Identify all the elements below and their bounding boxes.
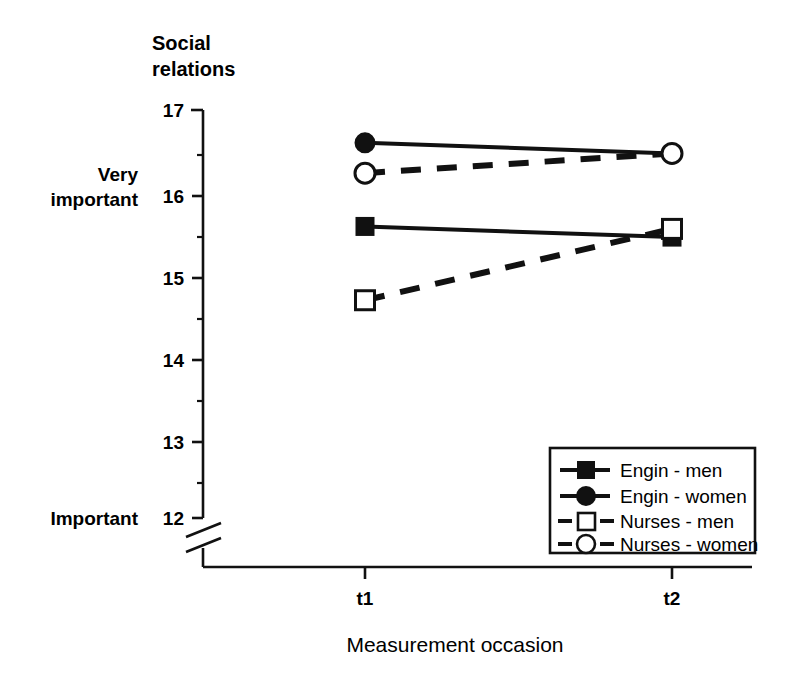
legend-item-engin-women[interactable]: Engin - women	[560, 486, 747, 507]
social-relations-line-chart: Social relations	[0, 0, 793, 675]
y-tick-label-16: 16	[163, 186, 184, 207]
y-anchor-label-very-important-line2: important	[50, 189, 138, 210]
series-line	[365, 143, 672, 154]
series-line	[365, 153, 672, 173]
y-axis-break-icon	[186, 523, 221, 552]
legend-item-nurses-men[interactable]: Nurses - men	[558, 511, 734, 532]
y-tick-label-12: 12	[163, 508, 184, 529]
y-tick-label-14: 14	[163, 350, 185, 371]
y-major-ticks	[192, 196, 203, 518]
open-circle-marker	[355, 163, 375, 183]
legend-item-nurses-women[interactable]: Nurses - women	[558, 534, 758, 555]
legend-label-nurses-women: Nurses - women	[620, 534, 758, 555]
chart-container: Social relations	[0, 0, 793, 675]
y-anchor-label-important: Important	[50, 508, 138, 529]
series-line	[365, 226, 672, 237]
filled-square-icon	[578, 462, 594, 478]
filled-square-marker	[357, 218, 374, 235]
y-axis	[186, 110, 221, 567]
open-circle-icon	[577, 535, 595, 553]
y-anchor-label-very-important-line1: Very	[98, 164, 139, 185]
open-circle-marker	[662, 143, 682, 163]
filled-circle-icon	[577, 487, 595, 505]
legend-label-engin-women: Engin - women	[620, 486, 747, 507]
legend: Engin - men Engin - women Nurses - men	[550, 448, 758, 555]
x-tick-label-t2: t2	[664, 588, 681, 609]
series-line	[365, 229, 672, 300]
x-tick-label-t1: t1	[357, 588, 374, 609]
legend-item-engin-men[interactable]: Engin - men	[560, 460, 722, 481]
data-series-layer	[355, 133, 682, 309]
chart-title-line1: Social	[152, 32, 211, 54]
chart-title-line2: relations	[152, 58, 235, 80]
open-square-marker	[663, 219, 682, 238]
open-square-icon	[578, 513, 595, 530]
series-engin-men	[357, 218, 681, 246]
y-tick-label-15: 15	[163, 268, 185, 289]
y-tick-label-17: 17	[163, 100, 184, 121]
filled-circle-marker	[356, 133, 375, 152]
legend-label-engin-men: Engin - men	[620, 460, 722, 481]
open-square-marker	[356, 291, 375, 310]
x-axis	[203, 567, 752, 579]
legend-label-nurses-men: Nurses - men	[620, 511, 734, 532]
y-tick-label-13: 13	[163, 432, 184, 453]
x-axis-title: Measurement occasion	[346, 633, 563, 656]
